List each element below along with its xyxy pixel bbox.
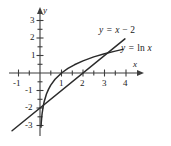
x-axis-name-label: x: [133, 60, 137, 69]
x-tick-label-1: 1: [59, 79, 64, 88]
x-tick-label-3: 3: [102, 79, 107, 88]
annotation-log-equation: y = ln x: [121, 44, 152, 53]
y-tick-label-2: 2: [30, 33, 35, 42]
y-tick-label-neg1: -1: [25, 86, 33, 95]
annotation-line-lhs: y =: [99, 25, 113, 35]
x-tick-label-2: 2: [80, 79, 85, 88]
x-tick-label-4: 4: [123, 79, 128, 88]
y-tick-label-neg2: -2: [25, 103, 33, 112]
annotation-line-equation: y = x − 2: [99, 26, 135, 35]
annotation-log-fn: ln: [137, 43, 145, 53]
y-tick-label-1: 1: [31, 51, 36, 60]
annotation-log-lhs: y =: [121, 43, 135, 53]
annotation-line-rhs-rest: − 2: [122, 25, 135, 35]
curve-natural-log: [41, 49, 123, 127]
annotation-log-var: x: [148, 43, 152, 53]
y-axis-name-label: y: [43, 6, 47, 15]
x-tick-label-neg1: -1: [13, 79, 21, 88]
function-graph-figure: -1 1 2 3 4 3 2 1 -1 -2 -3 y x y = x − 2 …: [0, 0, 171, 146]
x-axis-arrow-icon: [137, 70, 144, 76]
y-tick-label-3: 3: [30, 16, 35, 25]
y-tick-label-neg3: -3: [25, 121, 33, 130]
